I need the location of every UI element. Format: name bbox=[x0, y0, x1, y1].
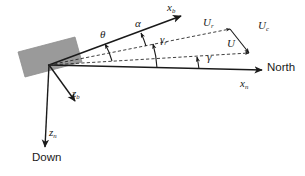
theta-angle-arc bbox=[105, 44, 112, 61]
total-velocity-label: U bbox=[227, 38, 235, 49]
alpha-angle-label: α bbox=[135, 18, 141, 29]
down-label: Down bbox=[32, 152, 61, 164]
ned-z-axis-label: zn bbox=[49, 127, 57, 140]
u-c-symbol: U bbox=[258, 19, 266, 31]
alpha-symbol: α bbox=[135, 17, 141, 29]
body-x-axis-label: xb bbox=[167, 2, 175, 15]
body-z-subscript: b bbox=[76, 93, 79, 100]
u-r-subscript: r bbox=[211, 22, 214, 29]
gamma-r-angle-arc bbox=[153, 44, 157, 68]
gamma-angle-arc bbox=[197, 57, 199, 69]
relative-velocity-label: Ur bbox=[203, 17, 214, 30]
ned-x-axis-arrow bbox=[49, 65, 262, 70]
ned-x-axis-label: xn bbox=[240, 78, 248, 91]
ned-x-subscript: n bbox=[245, 83, 248, 90]
body-z-axis-label: zb bbox=[72, 88, 80, 101]
u-c-subscript: c bbox=[266, 25, 269, 32]
figure-canvas: xb zb xn zn North Down θ α γr γ Ur Uc U bbox=[0, 0, 305, 176]
current-velocity-label: Uc bbox=[258, 20, 269, 33]
ned-z-subscript: n bbox=[53, 132, 56, 139]
alpha-angle-arc bbox=[141, 33, 146, 46]
gamma-angle-label: γ bbox=[207, 52, 211, 63]
gamma-symbol: γ bbox=[207, 51, 211, 63]
gamma-r-angle-label: γr bbox=[160, 34, 167, 47]
theta-angle-label: θ bbox=[100, 29, 105, 40]
north-label: North bbox=[267, 62, 295, 74]
u-r-symbol: U bbox=[203, 16, 211, 28]
gamma-r-subscript: r bbox=[164, 39, 167, 46]
u-symbol: U bbox=[227, 37, 235, 49]
body-x-subscript: b bbox=[172, 7, 175, 14]
